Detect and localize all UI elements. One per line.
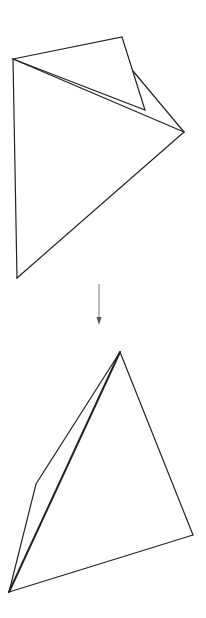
diagram-svg xyxy=(0,0,206,618)
top-to-right-edge xyxy=(120,352,193,535)
down-arrow-icon xyxy=(97,284,102,325)
figure-before xyxy=(13,37,184,278)
fold-diagram xyxy=(0,0,206,618)
top-left-to-right-edge xyxy=(13,59,184,132)
bottom-diagonal-edge xyxy=(17,132,184,278)
fold-edge-to-right xyxy=(133,71,184,132)
bold-diagonal-edge xyxy=(9,352,120,592)
right-to-bottom-edge xyxy=(9,535,193,592)
left-vertical-edge xyxy=(13,59,17,278)
arrow-head xyxy=(97,317,102,325)
figure-after xyxy=(9,352,193,592)
folded-flap xyxy=(13,37,145,110)
